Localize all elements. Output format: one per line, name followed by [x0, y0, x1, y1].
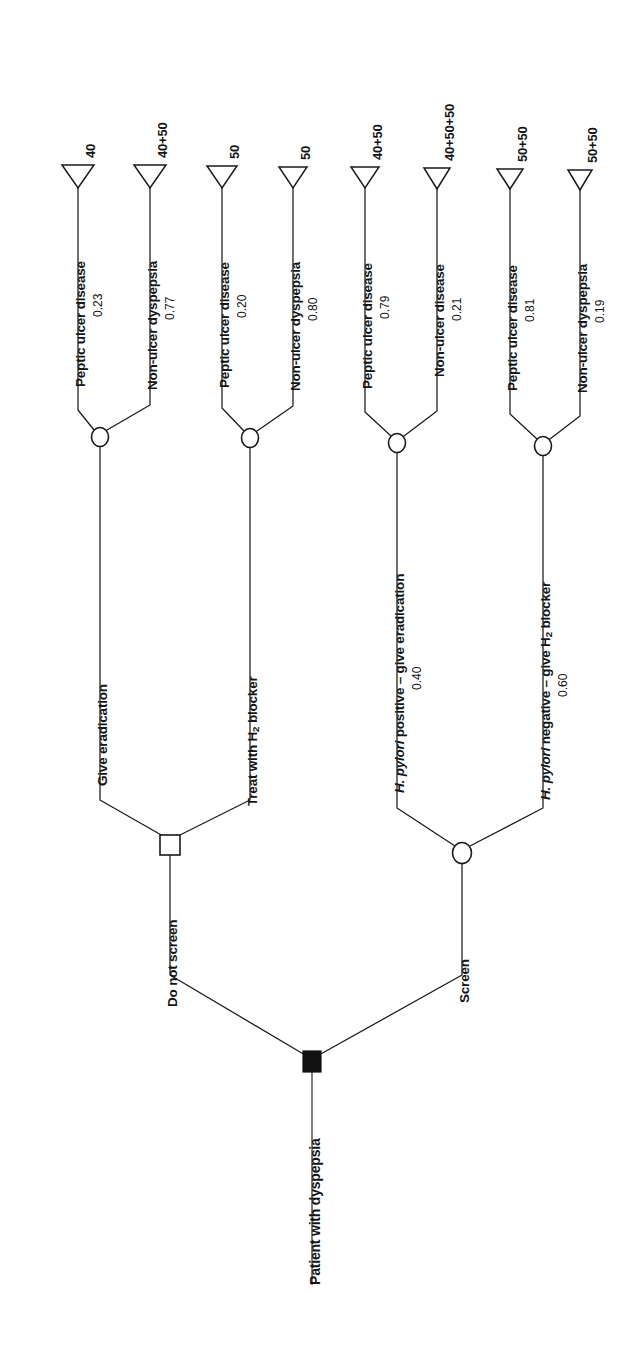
- chance-node-treat-h2-blocker[interactable]: [242, 429, 259, 448]
- hpylori-positive-rest: positive – give eradication: [392, 574, 407, 741]
- probability-t5: 0.79: [379, 296, 391, 319]
- probability-t6: 0.21: [451, 298, 463, 321]
- branch-label-hpylori-positive: H. pylori positive – give eradication: [393, 574, 407, 793]
- chance-node-hpylori-positive[interactable]: [389, 434, 406, 453]
- root-decision-node[interactable]: [303, 1051, 321, 1072]
- probability-hpylori-negative: 0.60: [557, 674, 569, 697]
- terminal-triangle-2[interactable]: [134, 165, 166, 188]
- payoff-t8: 50+50: [586, 127, 599, 163]
- treat-h2-text-pre: Treat with H: [245, 732, 260, 806]
- branch-label-give-eradication: Give eradication: [96, 684, 110, 786]
- probability-t1: 0.23: [92, 294, 104, 317]
- treat-h2-subscript: 2: [250, 727, 261, 732]
- payoff-t3: 50: [228, 145, 241, 159]
- hpylori-negative-subscript: 2: [543, 632, 554, 637]
- decision-tree-figure: Patient with dyspepsia Do not screen Scr…: [0, 0, 634, 1349]
- terminal-triangle-6[interactable]: [424, 168, 450, 189]
- edge-screen-hpylori-negative: [470, 455, 543, 846]
- branch-label-t4: Non-ulcer dyspepsia: [289, 262, 303, 391]
- hpylori-negative-italic: H. pylori: [538, 748, 553, 800]
- terminal-triangle-4[interactable]: [279, 167, 307, 188]
- payoff-t7: 50+50: [516, 126, 529, 162]
- payoff-t2: 40+50: [156, 122, 169, 158]
- payoff-t1: 40: [84, 144, 97, 158]
- edge-root-do-not-screen: [170, 845, 305, 1055]
- branch-label-t5: Peptic ulcer disease: [361, 263, 375, 389]
- edge-root-screen: [319, 861, 462, 1055]
- chance-node-screen[interactable]: [453, 843, 472, 864]
- hpylori-negative-rest-pre: negative – give H: [538, 637, 553, 747]
- probability-t2: 0.77: [164, 297, 176, 320]
- terminal-triangle-5[interactable]: [351, 167, 379, 188]
- root-label: Patient with dyspepsia: [308, 1138, 322, 1285]
- terminal-triangle-1[interactable]: [62, 165, 94, 188]
- branch-label-screen: Screen: [458, 959, 472, 1003]
- probability-t4: 0.80: [307, 298, 319, 321]
- payoff-t6: 40+50+50: [443, 104, 456, 161]
- terminal-triangle-7[interactable]: [497, 169, 523, 189]
- branch-label-t2: Non-ulcer dyspepsia: [146, 261, 160, 390]
- branch-label-treat-h2-blocker: Treat with H2 blocker: [246, 676, 261, 806]
- branch-label-t8: Non-ulcer dyspepsia: [576, 264, 590, 393]
- branch-label-t6: Non-ulcer disease: [433, 264, 447, 377]
- chance-node-hpylori-negative[interactable]: [535, 437, 552, 456]
- probability-t7: 0.81: [524, 299, 536, 322]
- hpylori-positive-italic: H. pylori: [392, 741, 407, 793]
- chance-node-give-eradication[interactable]: [92, 428, 109, 447]
- edge-donotscreen-treat-h2: [178, 447, 250, 836]
- probability-t8: 0.19: [594, 300, 606, 323]
- payoff-t4: 50: [299, 146, 312, 160]
- branch-label-t3: Peptic ulcer disease: [218, 262, 232, 388]
- treat-h2-text-post: blocker: [245, 676, 260, 726]
- branch-label-hpylori-negative: H. pylori negative – give H2 blocker: [539, 582, 554, 800]
- branch-label-t1: Peptic ulcer disease: [74, 261, 88, 387]
- edge-chance1-terminal2: [107, 186, 150, 430]
- branch-label-t7: Peptic ulcer disease: [506, 265, 520, 391]
- terminal-triangle-3[interactable]: [207, 166, 237, 188]
- payoff-t5: 40+50: [371, 124, 384, 160]
- probability-hpylori-positive: 0.40: [411, 667, 423, 690]
- decision-node-do-not-screen[interactable]: [160, 835, 180, 855]
- branch-label-do-not-screen: Do not screen: [166, 920, 180, 1007]
- terminal-triangle-8[interactable]: [568, 170, 592, 190]
- probability-t3: 0.20: [236, 295, 248, 318]
- hpylori-negative-rest-post: blocker: [538, 582, 553, 632]
